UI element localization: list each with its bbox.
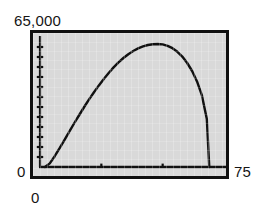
y-axis-min-label: 0 xyxy=(17,164,26,179)
plot-area xyxy=(33,33,226,176)
x-axis xyxy=(39,164,226,168)
plot-canvas xyxy=(33,33,226,176)
y-axis xyxy=(37,36,43,167)
plot-frame xyxy=(30,30,229,179)
data-curve xyxy=(45,44,209,167)
chart-screenshot: 65,000 0 0 75 xyxy=(0,0,259,215)
x-axis-max-label: 75 xyxy=(234,164,251,179)
y-axis-max-label: 65,000 xyxy=(14,13,61,28)
x-axis-min-label: 0 xyxy=(31,190,40,205)
